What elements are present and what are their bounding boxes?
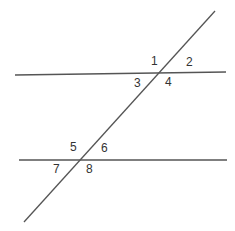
diagram-canvas: 1 2 3 4 5 6 7 8 [0,0,235,231]
lines-layer [0,0,235,231]
angle-label-3: 3 [134,77,141,89]
angle-label-5: 5 [70,141,77,153]
angle-label-1: 1 [151,55,158,67]
transversal-line [24,11,215,222]
angle-label-6: 6 [101,142,108,154]
angle-label-2: 2 [186,56,193,68]
angle-label-7: 7 [53,163,60,175]
top-parallel-line [15,72,226,75]
angle-label-4: 4 [165,76,172,88]
angle-label-8: 8 [86,163,93,175]
